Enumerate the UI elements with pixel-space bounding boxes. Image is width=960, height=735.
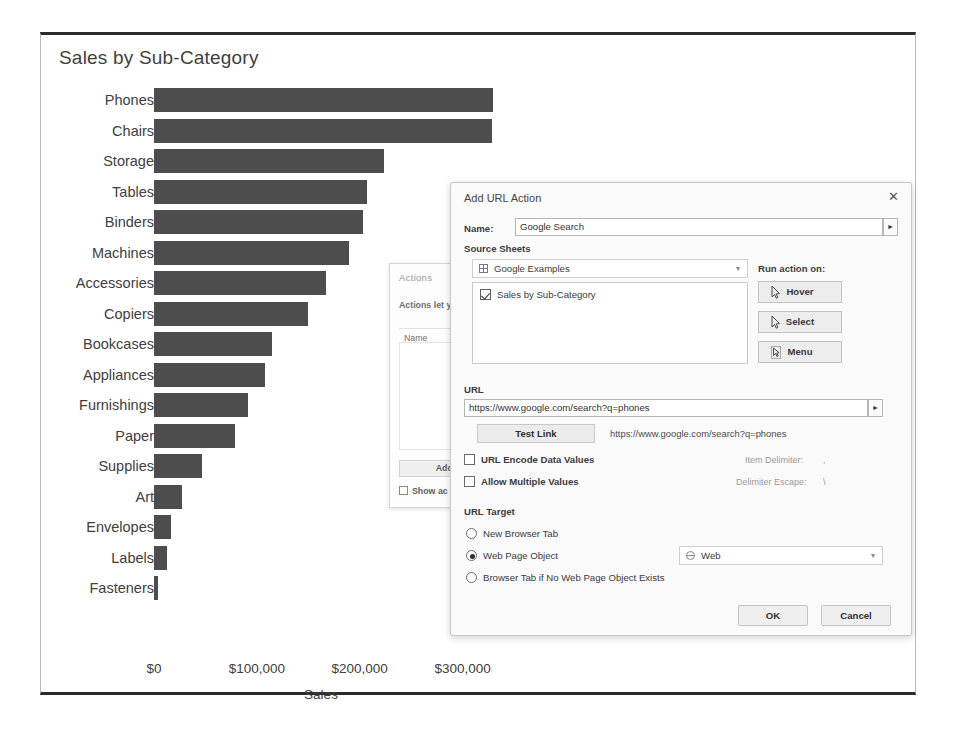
list-item[interactable]: Sales by Sub-Category	[480, 289, 596, 300]
radio-circle-icon	[466, 572, 477, 583]
bar[interactable]	[154, 210, 363, 234]
globe-icon	[686, 551, 695, 560]
name-input[interactable]: Google Search	[515, 218, 883, 236]
bar-label: Phones	[0, 85, 154, 115]
radio-new-browser-tab[interactable]: New Browser Tab	[466, 528, 558, 539]
bar-label: Tables	[0, 177, 154, 207]
bar-label: Paper	[0, 421, 154, 451]
cursor-menu-icon	[771, 346, 781, 359]
bar[interactable]	[154, 241, 349, 265]
bar-label: Envelopes	[0, 512, 154, 542]
name-label: Name:	[464, 223, 493, 234]
run-action-hover-button[interactable]: Hover	[758, 281, 842, 303]
web-page-object-value: Web	[701, 550, 721, 561]
screenshot-root: Sales by Sub-Category PhonesChairsStorag…	[0, 0, 960, 735]
grid-icon	[479, 264, 488, 273]
bar[interactable]	[154, 88, 493, 112]
allow-multiple-label: Allow Multiple Values	[481, 476, 579, 487]
bar[interactable]	[154, 454, 202, 478]
dialog-title: Add URL Action	[464, 192, 541, 204]
bar[interactable]	[154, 180, 367, 204]
name-dropdown-arrow-icon[interactable]: ►	[883, 218, 898, 236]
cancel-button[interactable]: Cancel	[821, 605, 891, 626]
checkbox-box	[464, 454, 475, 465]
item-delimiter-label: Item Delimiter:	[745, 455, 803, 465]
chevron-down-icon: ▾	[871, 547, 875, 564]
bar[interactable]	[154, 393, 248, 417]
bar-label: Furnishings	[0, 390, 154, 420]
test-link-button[interactable]: Test Link	[477, 424, 595, 443]
delimiter-escape-label: Delimiter Escape:	[736, 477, 807, 487]
workbook-select[interactable]: Google Examples ▾	[472, 259, 748, 278]
sheet-name: Sales by Sub-Category	[497, 289, 596, 300]
x-axis-title: Sales	[41, 687, 601, 702]
run-action-label: Run action on:	[758, 263, 825, 274]
bar-label: Binders	[0, 207, 154, 237]
bar[interactable]	[154, 302, 308, 326]
bar[interactable]	[154, 332, 272, 356]
bar[interactable]	[154, 515, 171, 539]
run-action-hover-label: Hover	[786, 286, 813, 297]
add-url-action-dialog: Add URL Action ✕ Name: Google Search ► S…	[450, 182, 912, 636]
bar[interactable]	[154, 363, 265, 387]
bar-label: Labels	[0, 543, 154, 573]
radio-browser-tab-fallback[interactable]: Browser Tab if No Web Page Object Exists	[466, 572, 664, 583]
url-target-label: URL Target	[464, 506, 515, 517]
url-encode-label: URL Encode Data Values	[481, 454, 594, 465]
bar[interactable]	[154, 485, 182, 509]
x-axis-tick-label: $100,000	[229, 661, 285, 676]
url-label: URL	[464, 384, 484, 395]
source-sheets-label: Source Sheets	[464, 243, 531, 254]
bar-label: Chairs	[0, 116, 154, 146]
cursor-hover-icon	[771, 286, 781, 299]
bar[interactable]	[154, 271, 326, 295]
delimiter-escape-value: \	[823, 477, 826, 487]
ok-button[interactable]: OK	[738, 605, 808, 626]
run-action-select-button[interactable]: Select	[758, 311, 842, 333]
radio-circle-selected-icon	[466, 550, 477, 561]
show-actions-label: Show ac	[412, 486, 448, 496]
allow-multiple-values-checkbox[interactable]: Allow Multiple Values	[464, 476, 579, 487]
web-page-object-select[interactable]: Web ▾	[679, 546, 883, 565]
cursor-select-icon	[771, 316, 781, 329]
url-dropdown-arrow-icon[interactable]: ►	[868, 399, 883, 417]
url-encode-checkbox[interactable]: URL Encode Data Values	[464, 454, 594, 465]
run-action-select-label: Select	[786, 316, 814, 327]
run-action-menu-label: Menu	[787, 346, 812, 357]
chevron-down-icon: ▾	[736, 260, 740, 277]
run-action-menu-button[interactable]: Menu	[758, 341, 842, 363]
bar[interactable]	[154, 119, 492, 143]
chart-title: Sales by Sub-Category	[59, 47, 259, 69]
bar-label: Fasteners	[0, 573, 154, 603]
bar-label: Copiers	[0, 299, 154, 329]
radio-circle-icon	[466, 528, 477, 539]
bar[interactable]	[154, 546, 167, 570]
bar-label: Supplies	[0, 451, 154, 481]
bar[interactable]	[154, 424, 235, 448]
test-link-url: https://www.google.com/search?q=phones	[610, 428, 786, 439]
bar-row[interactable]: Chairs	[41, 116, 917, 146]
radio-web-page-object[interactable]: Web Page Object	[466, 550, 558, 561]
checkbox-checked-icon[interactable]	[480, 289, 491, 300]
x-axis-tick-label: $300,000	[434, 661, 490, 676]
source-sheets-list[interactable]: Sales by Sub-Category	[472, 282, 748, 364]
bar-label: Machines	[0, 238, 154, 268]
actions-dialog-title: Actions	[399, 272, 432, 283]
x-axis-tick-label: $200,000	[332, 661, 388, 676]
workbook-value: Google Examples	[494, 263, 570, 274]
bar-label: Appliances	[0, 360, 154, 390]
radio-web-page-object-label: Web Page Object	[483, 550, 558, 561]
bar[interactable]	[154, 576, 158, 600]
bar-row[interactable]: Storage	[41, 146, 917, 176]
item-delimiter-value: ,	[823, 455, 826, 465]
show-actions-checkbox[interactable]: Show ac	[399, 486, 448, 496]
checkbox-box	[464, 476, 475, 487]
checkbox-box	[399, 486, 408, 495]
x-axis-tick-label: $0	[146, 661, 161, 676]
bar-label: Art	[0, 482, 154, 512]
url-input[interactable]: https://www.google.com/search?q=phones	[464, 399, 868, 417]
bar[interactable]	[154, 149, 384, 173]
bar-label: Storage	[0, 146, 154, 176]
bar-row[interactable]: Phones	[41, 85, 917, 115]
close-icon[interactable]: ✕	[886, 190, 900, 204]
